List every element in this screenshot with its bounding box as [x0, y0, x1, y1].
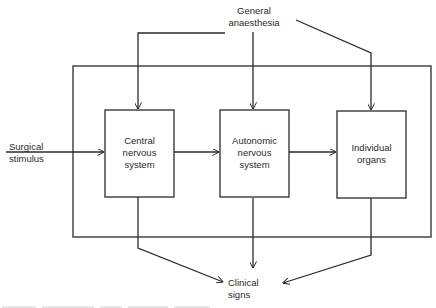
label-individual-organs: Individual organs — [337, 142, 406, 166]
arrow-ga-to-organs — [296, 20, 371, 110]
label-autonomic-nervous-system: Autonomic nervous system — [220, 135, 289, 171]
arrow-ga-to-cns — [138, 33, 225, 109]
label-surgical-stimulus: Surgical stimulus — [9, 141, 69, 165]
arrow-cns-to-signs — [138, 197, 223, 282]
label-central-nervous-system: Central nervous system — [105, 135, 174, 171]
arrow-organs-to-signs — [283, 198, 371, 283]
label-general-anaesthesia: General anaesthesia — [222, 5, 286, 29]
figure-caption — [2, 298, 242, 306]
